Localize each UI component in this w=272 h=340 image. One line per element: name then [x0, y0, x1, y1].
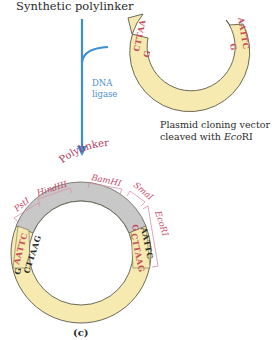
- cleaved-plasmid-vector: [128, 14, 250, 112]
- enzyme-label-line2: ligase: [92, 89, 117, 99]
- vector-caption-line1: Plasmid cloning vector: [160, 119, 270, 130]
- site-smai: SmaI: [132, 180, 156, 202]
- title: Synthetic polylinker: [16, 0, 134, 13]
- recombinant-dna-diagram: Synthetic polylinker DNA ligase CTTAA G …: [0, 0, 272, 340]
- site-ecori: EcoRI: [153, 209, 171, 238]
- vector-caption-line2: cleaved with EcoRI: [160, 131, 253, 142]
- left-sticky-end-g: G: [141, 49, 152, 58]
- enzyme-label-line1: DNA: [92, 78, 113, 88]
- polylinker-label: Polylinker: [57, 137, 110, 165]
- panel-label: (c): [73, 327, 89, 338]
